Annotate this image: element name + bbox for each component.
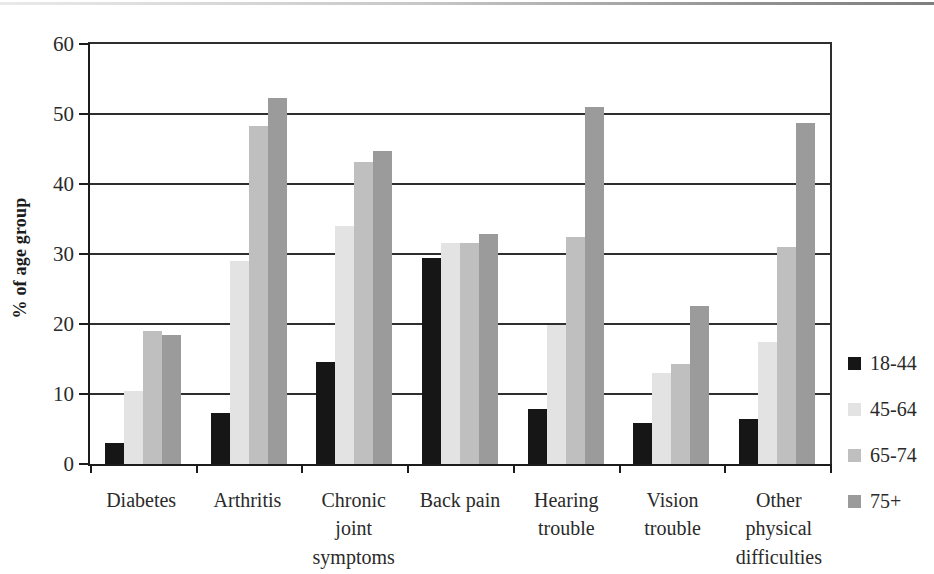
y-tick-label-0: 0 (64, 454, 75, 475)
x-label-4: Back pain (407, 486, 513, 514)
x-tick-7 (830, 464, 832, 473)
bar-75+-3 (373, 151, 392, 464)
bar-75+-7 (796, 123, 815, 464)
y-tick-10 (79, 393, 90, 395)
x-label-7: Other physical difficulties (726, 486, 832, 571)
legend-swatch-45-64 (848, 403, 861, 416)
x-axis-labels: DiabetesArthritisChronic joint symptomsB… (88, 486, 832, 571)
y-tick-0 (79, 463, 90, 465)
bar-65-74-5 (566, 237, 585, 465)
x-label-3: Chronic joint symptoms (301, 486, 407, 571)
bar-group-7 (724, 44, 830, 464)
x-tick-4 (513, 464, 515, 473)
bar-65-74-1 (143, 331, 162, 464)
legend-swatch-18-44 (848, 357, 861, 370)
y-tick-40 (79, 183, 90, 185)
scan-artifact-line (0, 2, 934, 5)
bar-18-44-2 (211, 413, 230, 464)
y-tick-20 (79, 323, 90, 325)
bar-45-64-2 (230, 261, 249, 464)
plot-area: 0102030405060 (88, 42, 832, 466)
x-tick-3 (407, 464, 409, 473)
bar-45-64-5 (547, 325, 566, 464)
x-tick-0 (90, 464, 92, 473)
bar-65-74-3 (354, 162, 373, 464)
chart-page: % of age group 0102030405060 DiabetesArt… (0, 0, 934, 574)
y-tick-label-10: 10 (53, 384, 74, 405)
y-tick-label-50: 50 (53, 104, 74, 125)
bar-45-64-6 (652, 373, 671, 464)
legend-swatch-65-74 (848, 449, 861, 462)
x-tick-5 (619, 464, 621, 473)
y-tick-label-20: 20 (53, 314, 74, 335)
y-tick-label-60: 60 (53, 34, 74, 55)
bar-75+-4 (479, 234, 498, 464)
x-label-6: Vision trouble (619, 486, 725, 543)
bar-group-2 (196, 44, 302, 464)
legend-swatch-75+ (848, 495, 861, 508)
y-tick-label-40: 40 (53, 174, 74, 195)
bar-18-44-3 (316, 362, 335, 464)
bar-18-44-5 (528, 409, 547, 464)
x-tick-2 (301, 464, 303, 473)
bar-75+-6 (690, 306, 709, 464)
legend-label-65-74: 65-74 (870, 445, 917, 465)
bar-65-74-7 (777, 247, 796, 464)
bar-75+-5 (585, 107, 604, 464)
legend-label-75+: 75+ (870, 491, 901, 511)
bar-75+-2 (268, 98, 287, 464)
bar-45-64-1 (124, 391, 143, 465)
bar-18-44-6 (633, 423, 652, 464)
x-label-2: Arthritis (194, 486, 300, 514)
legend-label-18-44: 18-44 (870, 353, 917, 373)
y-axis-title: % of age group (10, 198, 31, 319)
legend-label-45-64: 45-64 (870, 399, 917, 419)
legend-item-18-44: 18-44 (848, 352, 917, 374)
bar-18-44-1 (105, 443, 124, 464)
bar-group-4 (407, 44, 513, 464)
x-label-5: Hearing trouble (513, 486, 619, 543)
bar-18-44-7 (739, 419, 758, 464)
bar-group-6 (619, 44, 725, 464)
bar-18-44-4 (422, 258, 441, 464)
legend-item-45-64: 45-64 (848, 398, 917, 420)
bar-45-64-3 (335, 226, 354, 464)
bar-45-64-7 (758, 342, 777, 465)
x-tick-6 (724, 464, 726, 473)
bar-65-74-6 (671, 364, 690, 464)
bar-group-3 (301, 44, 407, 464)
y-tick-label-30: 30 (53, 244, 74, 265)
x-tick-1 (196, 464, 198, 473)
bar-group-1 (90, 44, 196, 464)
bar-65-74-2 (249, 126, 268, 464)
legend: 18-4445-6465-7475+ (848, 352, 917, 536)
y-tick-50 (79, 113, 90, 115)
y-tick-60 (79, 43, 90, 45)
legend-item-75+: 75+ (848, 490, 917, 512)
y-tick-30 (79, 253, 90, 255)
x-label-1: Diabetes (88, 486, 194, 514)
bars-layer (90, 44, 830, 464)
legend-item-65-74: 65-74 (848, 444, 917, 466)
bar-group-5 (513, 44, 619, 464)
bar-45-64-4 (441, 243, 460, 464)
bar-75+-1 (162, 335, 181, 465)
bar-65-74-4 (460, 243, 479, 464)
